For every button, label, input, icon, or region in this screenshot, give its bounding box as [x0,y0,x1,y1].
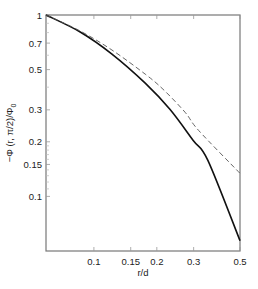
x-axis-label: r/d [137,267,148,278]
y-tick-label: 0.5 [29,64,42,75]
y-tick-label: 0.3 [29,104,42,115]
x-tick-label: 0.3 [187,256,200,267]
x-tick-label: 0.2 [150,256,163,267]
series-line-dashed [46,15,240,173]
x-tick-label: 0.15 [121,256,140,267]
y-axis-label-main: −Φ (r, π/2)/Φ [4,107,15,162]
x-tick-label: 0.5 [233,256,246,267]
plot-frame [46,15,240,251]
series-group [46,15,240,241]
y-tick-label: 0.2 [29,136,42,147]
plot-border [46,15,240,251]
y-tick-label: 0.7 [29,38,42,49]
y-axis-label: −Φ (r, π/2)/Φ0 [4,104,17,163]
y-tick-label: 0.15 [24,159,43,170]
y-tick-label: 0.1 [29,191,42,202]
x-tick-label: 0.1 [87,256,100,267]
chart: 0.10.150.20.30.5 10.70.50.30.20.150.1 r/… [0,0,258,289]
y-axis-label-subscript: 0 [10,104,17,108]
series-line-solid [46,15,240,241]
y-tick-label: 1 [37,10,42,21]
